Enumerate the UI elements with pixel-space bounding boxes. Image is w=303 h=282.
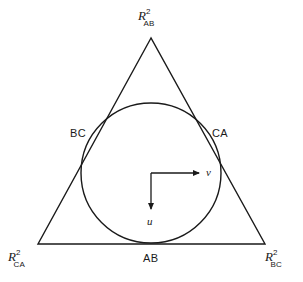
diagram-svg [0, 0, 303, 282]
vertex-label-bottom-left-superscript: 2 [16, 248, 20, 257]
vertex-label-top: R2AB [138, 9, 161, 26]
vertex-label-bottom-left: R2CA [8, 250, 32, 267]
triangle-outline [38, 38, 265, 244]
vertex-label-bottom-right: R2BC [265, 250, 289, 267]
vertex-label-top-superscript: 2 [146, 7, 150, 16]
vertex-label-bottom-right-subscript: BC [270, 260, 282, 269]
axis-label-v: v [206, 167, 211, 178]
axis-label-u: u [147, 216, 153, 227]
edge-label-ca: CA [212, 128, 228, 139]
edge-label-bc: BC [70, 128, 86, 139]
vertex-label-bottom-right-superscript: 2 [273, 248, 277, 257]
edge-label-ab: AB [143, 253, 158, 264]
vertex-label-bottom-left-subscript: CA [13, 260, 25, 269]
figure-canvas: R2AB R2CA R2BC BC CA AB v u [0, 0, 303, 282]
vertex-label-top-subscript: AB [143, 19, 154, 28]
